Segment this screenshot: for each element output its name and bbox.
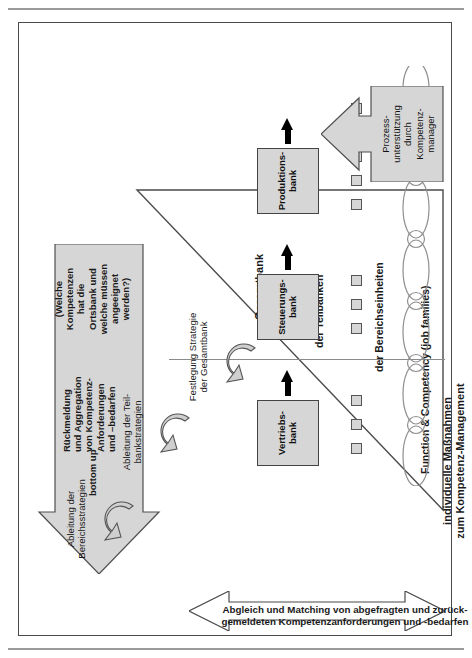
black-arrow-1	[281, 370, 294, 396]
page-title: individuelle Maßnahmen zum Kompetenz-Man…	[441, 336, 467, 586]
unit-square	[351, 395, 362, 406]
label-division-strategy: Ableitung der Bereichsstrategien	[65, 460, 88, 578]
bank-box-vertriebsbank[interactable]: Vertriebs- bank	[257, 400, 319, 466]
curved-arrow-strategy	[221, 342, 263, 388]
scan-line-top	[8, 8, 464, 10]
unit-square	[351, 419, 362, 430]
unit-square	[351, 299, 362, 310]
process-support-label: Prozess- unterstützung durch Kompetenz- …	[373, 86, 443, 182]
process-support-arrow: Prozess- unterstützung durch Kompetenz- …	[321, 86, 445, 182]
bank-box-steuerungsbank[interactable]: Steuerungs- bank	[257, 274, 319, 340]
matching-double-arrow-label: Abgleich und Matching von abgefragten un…	[217, 604, 472, 627]
label-bereichseinheiten: der Bereichseinheiten	[373, 232, 385, 372]
bank-box-produktionsbank[interactable]: Produktions- bank	[257, 148, 319, 214]
black-arrow-3	[281, 118, 294, 144]
diagram-page: bottom up Rückmeldung und Aggregation vo…	[0, 0, 472, 658]
bottom-up-text-2: (Welche Kompetenzen hat die Ortsbank und…	[53, 239, 131, 359]
label-subbank-strategy: Ableitung der Teil- bankstrategien	[121, 372, 144, 492]
diagram-stage: bottom up Rückmeldung und Aggregation vo…	[21, 24, 451, 634]
scan-line-bottom	[8, 648, 464, 650]
label-strategy-gesamtbank: Festlegung Strategie der Gesamtbank	[187, 292, 210, 422]
unit-square	[351, 323, 362, 334]
black-arrow-2	[281, 244, 294, 270]
curved-arrow-division	[99, 500, 141, 546]
unit-square	[351, 443, 362, 454]
unit-square	[351, 199, 362, 210]
unit-square	[351, 275, 362, 286]
